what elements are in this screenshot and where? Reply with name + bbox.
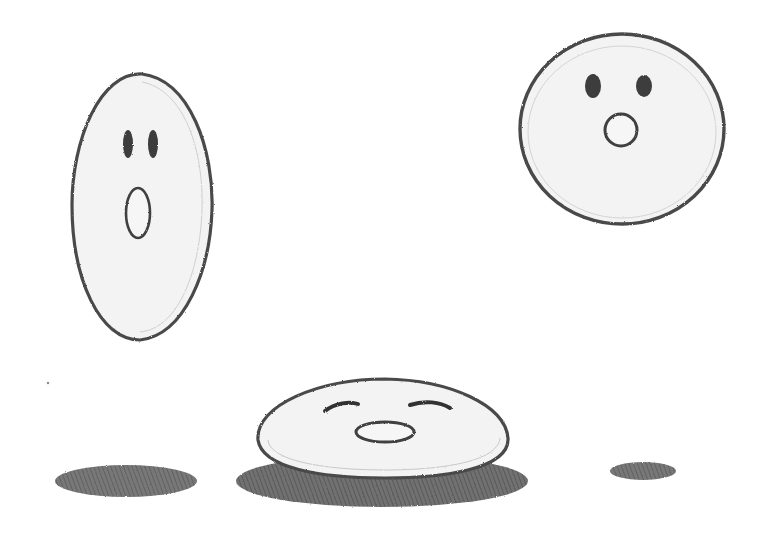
shadow-right xyxy=(610,462,676,480)
squashed-ball xyxy=(258,379,508,478)
round-ball xyxy=(520,34,724,224)
right-eye xyxy=(148,130,158,158)
stray-mark xyxy=(47,382,49,384)
right-eye xyxy=(636,75,652,97)
mouth xyxy=(605,114,637,146)
left-eye xyxy=(585,74,601,98)
mouth xyxy=(356,422,414,442)
sketch-canvas xyxy=(0,0,759,545)
left-eye xyxy=(123,130,133,158)
mouth xyxy=(126,188,150,238)
shadow-left xyxy=(55,465,197,497)
stretched-ball xyxy=(72,74,212,340)
